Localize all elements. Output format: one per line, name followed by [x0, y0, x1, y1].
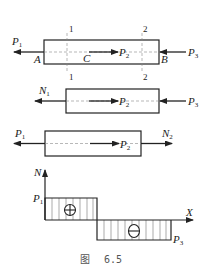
p1-label: P1	[14, 127, 26, 141]
section-1-bottom-label: 1	[69, 72, 74, 82]
full-bar-diagram: 1 1 2 2 P1 A P2 C P3 B	[11, 24, 199, 82]
left-free-body-diagram: P1 P2 N2	[14, 127, 173, 156]
caption-prefix: 图	[80, 254, 90, 265]
point-a-label: A	[33, 53, 41, 65]
point-c-label: C	[83, 52, 91, 64]
point-b-label: B	[161, 53, 168, 65]
p1-label: P1	[11, 35, 23, 49]
section-1-top-label: 1	[69, 24, 74, 34]
right-free-body-diagram: N1 P2 P3	[35, 84, 199, 113]
p2-label: P2	[118, 95, 130, 109]
section-2-top-label: 2	[143, 24, 148, 34]
n2-label: N2	[161, 127, 173, 141]
p3-value-label: P3	[172, 233, 184, 247]
minus-sign-icon	[129, 225, 140, 238]
section-2-bottom-label: 2	[143, 72, 148, 82]
p3-label: P3	[187, 95, 199, 109]
plus-sign-icon	[65, 205, 76, 216]
p1-value-label: P1	[32, 192, 44, 206]
p2-label: P2	[118, 46, 130, 60]
figure-caption: 图 6.5	[80, 254, 122, 265]
x-axis-label: X	[185, 206, 194, 218]
caption-number: 6.5	[104, 254, 122, 265]
n-axis-label: N	[33, 166, 42, 178]
p2-label: P2	[119, 138, 131, 152]
axial-force-diagram: N X P1 P3	[32, 166, 194, 247]
p3-label: P3	[187, 46, 199, 60]
axial-force-figure: 1 1 2 2 P1 A P2 C P3 B N1 P2 P3 P1	[0, 0, 212, 277]
n1-label: N1	[38, 84, 50, 98]
